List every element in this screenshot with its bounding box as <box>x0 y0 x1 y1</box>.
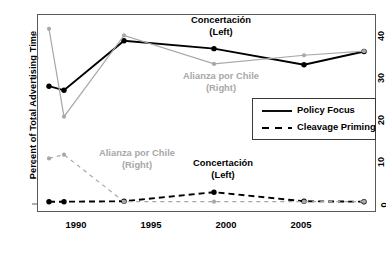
data-point <box>46 199 51 204</box>
data-point <box>211 46 216 51</box>
annotation-alianza-top-line2: (Right) <box>166 82 276 94</box>
legend-label-cleavage-priming: Cleavage Priming <box>297 121 376 132</box>
legend-label-policy-focus: Policy Focus <box>297 104 355 115</box>
legend-dashed-line-icon <box>260 119 294 136</box>
annotation-concertacion-bottom-line2: (Left) <box>168 169 278 181</box>
data-point <box>47 27 51 31</box>
data-point <box>61 199 66 204</box>
data-point <box>122 200 126 204</box>
annotation-concertacion-top: Concertación (Left) <box>166 14 276 37</box>
chart-figure: Percent of Total Advertising Time 40 30 … <box>0 0 386 257</box>
data-point <box>362 200 366 204</box>
data-point <box>362 49 366 53</box>
data-point <box>212 200 216 204</box>
data-point <box>211 190 216 195</box>
annotation-concertacion-top-line1: Concertación <box>166 14 276 26</box>
data-point <box>302 53 306 57</box>
data-point <box>62 153 66 157</box>
data-point <box>62 115 66 119</box>
data-point <box>212 62 216 66</box>
series-line-2 <box>49 192 364 201</box>
data-point <box>61 88 66 93</box>
annotation-concertacion-bottom-line1: Concertación <box>168 157 278 169</box>
annotation-concertacion-bottom: Concertación (Left) <box>168 157 278 180</box>
x-tick-label-1995: 1995 <box>129 219 173 230</box>
annotation-alianza-top-line1: Alianza por Chile <box>166 70 276 82</box>
x-tick-label-1990: 1990 <box>54 219 98 230</box>
annotation-alianza-top: Alianza por Chile (Right) <box>166 70 276 93</box>
x-tick-label-2005: 2005 <box>279 219 323 230</box>
annotation-concertacion-top-line2: (Left) <box>166 26 276 38</box>
data-point <box>302 200 306 204</box>
chart-legend: Policy Focus Cleavage Priming <box>252 98 376 140</box>
legend-item-policy-focus: Policy Focus <box>253 102 377 119</box>
legend-solid-line-icon <box>260 102 294 119</box>
data-point <box>301 62 306 67</box>
data-point <box>47 156 51 160</box>
legend-item-cleavage-priming: Cleavage Priming <box>253 119 377 136</box>
data-point <box>122 33 126 37</box>
x-tick-label-2000: 2000 <box>204 219 248 230</box>
data-point <box>46 83 51 88</box>
